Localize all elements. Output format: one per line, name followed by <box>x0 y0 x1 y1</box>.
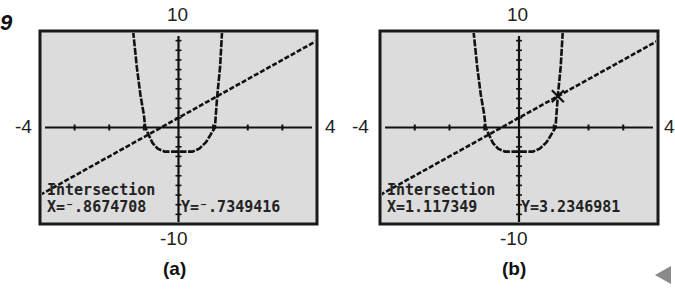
ymin-label: -10 <box>500 228 527 250</box>
screen-title: Intersection <box>387 182 495 198</box>
xmin-label: -4 <box>352 116 369 138</box>
ymax-label: 10 <box>167 4 188 26</box>
y-readout: Y=3.2346981 <box>521 199 620 215</box>
xmax-label: 4 <box>664 116 675 138</box>
xmin-label: -4 <box>15 116 32 138</box>
panel-caption: (b) <box>502 258 526 280</box>
x-readout: X=⁻.8674708 <box>47 199 146 215</box>
panel-a: 10 -4 4 -10 Intersection X=⁻.8674708 Y=⁻… <box>0 0 335 290</box>
screen-title: Intersection <box>47 182 155 198</box>
left-triangle-nav-icon[interactable] <box>655 266 671 284</box>
panel-b: 10 -4 4 -10 Intersection X=1.117349 Y=3.… <box>335 0 670 290</box>
ymax-label: 10 <box>507 4 528 26</box>
y-readout: Y=⁻.7349416 <box>181 199 280 215</box>
ymin-label: -10 <box>160 228 187 250</box>
x-readout: X=1.117349 <box>387 199 477 215</box>
panel-caption: (a) <box>163 258 186 280</box>
xmax-label: 4 <box>325 116 336 138</box>
